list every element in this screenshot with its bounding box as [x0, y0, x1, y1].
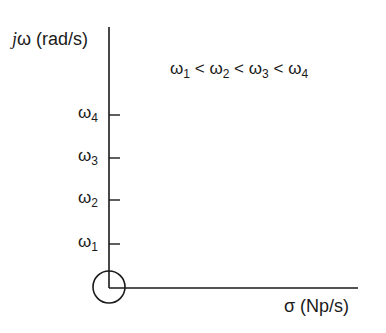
omega-symbol: ω: [170, 59, 183, 78]
omega-subscript: 1: [91, 240, 98, 254]
y-axis-label: jω (rad/s): [12, 30, 88, 48]
omega-symbol: ω: [78, 103, 91, 122]
tick-label-omega2: ω2: [78, 189, 98, 209]
omega-symbol: ω: [209, 59, 222, 78]
omega-subscript: 3: [262, 67, 269, 81]
less-than: <: [195, 59, 205, 78]
omega-subscript: 4: [301, 67, 308, 81]
omega-subscript: 2: [91, 196, 98, 210]
x-axis-label: σ (Np/s): [284, 297, 349, 315]
omega-subscript: 1: [183, 67, 190, 81]
omega-symbol: ω: [288, 59, 301, 78]
axes-svg: [0, 0, 386, 333]
less-than: <: [234, 59, 244, 78]
frequency-relation: ω1 < ω2 < ω3 < ω4: [170, 60, 308, 80]
omega-subscript: 3: [91, 154, 98, 168]
tick-label-omega1: ω1: [78, 233, 98, 253]
omega-symbol: ω: [78, 188, 91, 207]
omega-symbol: ω: [78, 146, 91, 165]
tick-label-omega4: ω4: [78, 104, 98, 124]
less-than: <: [273, 59, 283, 78]
tick-label-omega3: ω3: [78, 147, 98, 167]
omega-symbol: ω: [249, 59, 262, 78]
omega-subscript: 4: [91, 111, 98, 125]
omega-subscript: 2: [223, 67, 230, 81]
omega-symbol: ω: [78, 232, 91, 251]
y-axis-label-text: ω (rad/s): [17, 29, 88, 49]
